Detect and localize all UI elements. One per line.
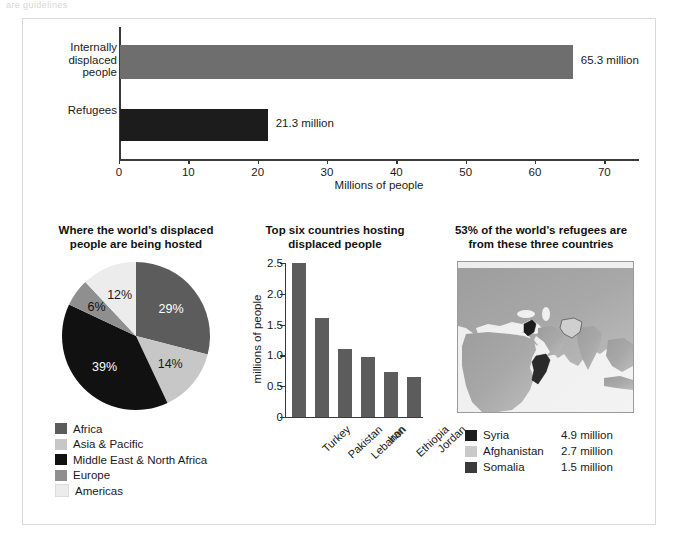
map-panel-title: 53% of the world’s refugees are from the…	[433, 223, 649, 251]
map-legend: Syria4.9 millionAfghanistan2.7 millionSo…	[465, 427, 645, 475]
map-legend-country: Syria	[483, 429, 561, 441]
vbar-bar-pakistan	[315, 318, 329, 417]
bar-refugees	[120, 109, 268, 141]
pie-legend-item: Americas	[55, 483, 245, 499]
vbar-bar-lebanon	[338, 349, 352, 417]
legend-swatch-icon	[465, 446, 477, 457]
vbar-tick-label: 0	[251, 411, 283, 423]
pie-svg	[61, 261, 211, 411]
hbar-tick-mark	[258, 159, 259, 164]
cutoff-header-text: are guidelines	[6, 0, 166, 12]
pie-legend-item: Africa	[55, 421, 245, 437]
bar-value-internally-displaced: 65.3 million	[581, 54, 639, 66]
legend-swatch-icon	[55, 470, 67, 481]
hbar-tick-label: 0	[116, 166, 122, 178]
legend-swatch-icon	[465, 462, 477, 473]
infographic-frame: Internally displaced people Refugees 65.…	[22, 18, 656, 525]
vbar-plot-area: 00.51.01.52.02.5	[285, 263, 423, 417]
refugee-origin-panel: 53% of the world’s refugees are from the…	[433, 215, 649, 515]
hbar-tick-label: 40	[390, 166, 403, 178]
pie-legend: AfricaAsia & PacificMiddle East & North …	[55, 421, 245, 499]
pie-legend-label: Asia & Pacific	[73, 438, 143, 450]
pie-legend-label: Middle East & North Africa	[73, 454, 207, 466]
hbar-tick-label: 50	[459, 166, 472, 178]
pie-legend-label: Americas	[75, 485, 123, 497]
vbar-bar-ethiopia	[384, 372, 398, 417]
hbar-label-internally-displaced: Internally displaced people	[68, 41, 117, 79]
vbar-y-axis-line	[285, 263, 286, 417]
vbar-x-axis-line	[285, 417, 423, 418]
pie-legend-label: Europe	[73, 469, 110, 481]
hbar-tick-mark	[535, 159, 536, 164]
hosting-regions-panel: Where the world’s displaced people are b…	[31, 215, 241, 515]
vbar-tick-label: 2.5	[251, 257, 283, 269]
hbar-label-refugees: Refugees	[68, 104, 117, 117]
map-legend-value: 2.7 million	[561, 445, 613, 457]
hbar-tick-label: 20	[251, 166, 264, 178]
vbar-tick-label: 0.5	[251, 380, 283, 392]
map-legend-value: 1.5 million	[561, 461, 613, 473]
hbar-tick-mark	[396, 159, 397, 164]
hbar-tick-label: 70	[598, 166, 611, 178]
displaced-vs-refugees-chart: Internally displaced people Refugees 65.…	[23, 19, 657, 199]
legend-swatch-icon	[465, 430, 477, 441]
bar-value-refugees: 21.3 million	[276, 117, 334, 129]
pie-legend-label: Africa	[73, 423, 102, 435]
world-map	[457, 261, 634, 413]
map-caspian-sea	[542, 307, 550, 321]
hbar-category-labels: Internally displaced people Refugees	[31, 19, 117, 159]
pie-legend-item: Asia & Pacific	[55, 437, 245, 453]
legend-swatch-icon	[55, 439, 67, 450]
vbar-tick-label: 2.0	[251, 288, 283, 300]
hbar-tick-mark	[604, 159, 605, 164]
map-svg	[458, 262, 633, 412]
hosting-regions-pie-chart: 29% 14% 39% 6% 12%	[61, 261, 211, 411]
vbar-tick-label: 1.5	[251, 319, 283, 331]
pie-legend-item: Middle East & North Africa	[55, 452, 245, 468]
vbar-tick-label: 1.0	[251, 349, 283, 361]
hbar-tick-label: 10	[182, 166, 195, 178]
top-hosting-countries-panel: Top six countries hosting displaced peop…	[235, 215, 435, 515]
pie-legend-item: Europe	[55, 468, 245, 484]
hbar-tick-label: 30	[321, 166, 334, 178]
vbar-bar-turkey	[292, 263, 306, 417]
legend-swatch-icon	[55, 484, 69, 497]
vbar-bar-jordan	[407, 377, 421, 417]
hbar-tick-mark	[119, 159, 120, 164]
hbar-tick-mark	[327, 159, 328, 164]
bar-internally-displaced	[120, 45, 573, 79]
vbar-panel-title: Top six countries hosting displaced peop…	[235, 223, 435, 251]
hbar-tick-mark	[466, 159, 467, 164]
map-black-sea	[517, 310, 535, 318]
vbar-bar-iran	[361, 357, 375, 417]
map-legend-country: Somalia	[483, 461, 561, 473]
map-legend-item: Afghanistan2.7 million	[465, 443, 645, 459]
hbar-plot-area: 65.3 million 21.3 million 01020304050607…	[119, 27, 639, 159]
pie-panel-title: Where the world’s displaced people are b…	[31, 223, 241, 251]
legend-swatch-icon	[55, 423, 67, 434]
legend-swatch-icon	[55, 454, 67, 465]
map-legend-item: Somalia1.5 million	[465, 459, 645, 475]
vbar-country-labels: TurkeyPakistanLebanonIranEthiopiaJordan	[285, 421, 445, 481]
map-legend-country: Afghanistan	[483, 445, 561, 457]
hbar-x-axis-title: Millions of people	[119, 179, 639, 191]
hbar-tick-label: 60	[529, 166, 542, 178]
map-legend-item: Syria4.9 million	[465, 427, 645, 443]
map-legend-value: 4.9 million	[561, 429, 613, 441]
hbar-tick-mark	[188, 159, 189, 164]
